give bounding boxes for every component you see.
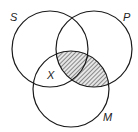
marker-x: X: [46, 69, 55, 81]
label-m: M: [103, 111, 113, 123]
label-s: S: [10, 11, 18, 23]
label-p: P: [123, 11, 131, 23]
venn-diagram: S P M X: [0, 0, 138, 132]
